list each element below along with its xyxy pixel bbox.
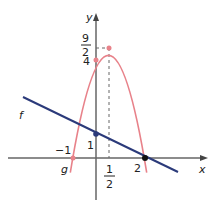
coordinate-graph: y x f g 9 2 4 1 −1 2 1 2	[0, 0, 217, 203]
tick-label-two: 2	[134, 162, 141, 175]
point-intersection-two	[142, 155, 148, 161]
f-label: f	[19, 109, 25, 122]
x-axis-arrow-icon	[200, 155, 208, 161]
point-root-minus-one	[71, 156, 76, 161]
nine-halves-numerator: 9	[82, 32, 89, 45]
tick-label-one: 1	[87, 139, 94, 152]
x-axis-label: x	[198, 163, 206, 176]
point-vertex	[107, 46, 112, 51]
g-label: g	[61, 163, 68, 176]
half-numerator: 1	[106, 163, 113, 176]
y-axis-arrow-icon	[93, 13, 99, 21]
y-axis-label: y	[85, 11, 93, 24]
tick-label-four: 4	[83, 55, 90, 68]
line-f	[23, 97, 178, 172]
tick-label-minus-one: −1	[55, 144, 71, 157]
point-y-intercept-f	[93, 131, 99, 137]
half-denominator: 2	[106, 178, 113, 191]
point-y-intercept-g	[94, 58, 99, 63]
